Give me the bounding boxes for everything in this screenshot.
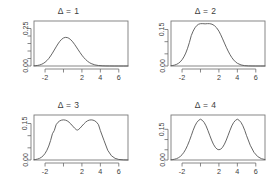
svg-text:6: 6 bbox=[254, 167, 258, 176]
svg-text:0.15: 0.15 bbox=[21, 117, 28, 131]
svg-text:2: 2 bbox=[80, 73, 84, 82]
svg-text:0.00: 0.00 bbox=[22, 153, 29, 167]
svg-text:6: 6 bbox=[117, 167, 121, 176]
svg-text:6: 6 bbox=[254, 73, 258, 82]
svg-text:4: 4 bbox=[98, 167, 102, 176]
plot-delta-3: 0.000.15-2246 bbox=[0, 94, 137, 188]
svg-text:0.00: 0.00 bbox=[159, 59, 166, 73]
mixture-density-figure: Δ = 1 0.000.25-2246 Δ = 2 0.000.15-2246 … bbox=[0, 0, 274, 188]
panel-delta-2: Δ = 2 0.000.15-2246 bbox=[137, 0, 274, 94]
svg-text:4: 4 bbox=[235, 73, 239, 82]
svg-text:-2: -2 bbox=[42, 73, 48, 82]
plot-delta-4: 0.000.15-2246 bbox=[137, 94, 274, 188]
svg-text:2: 2 bbox=[80, 167, 84, 176]
svg-text:6: 6 bbox=[117, 73, 121, 82]
svg-text:0.15: 0.15 bbox=[159, 23, 166, 37]
svg-text:-2: -2 bbox=[179, 167, 185, 176]
panel-delta-1: Δ = 1 0.000.25-2246 bbox=[0, 0, 137, 94]
svg-text:0.00: 0.00 bbox=[22, 59, 29, 73]
svg-text:4: 4 bbox=[98, 73, 102, 82]
svg-text:0.15: 0.15 bbox=[159, 122, 166, 136]
svg-text:2: 2 bbox=[217, 73, 221, 82]
panel-delta-4: Δ = 4 0.000.15-2246 bbox=[137, 94, 274, 188]
svg-text:0.00: 0.00 bbox=[159, 153, 166, 167]
plot-delta-2: 0.000.15-2246 bbox=[137, 0, 274, 94]
svg-text:-2: -2 bbox=[179, 73, 185, 82]
svg-text:0.25: 0.25 bbox=[22, 22, 29, 36]
svg-text:-2: -2 bbox=[42, 167, 48, 176]
svg-text:4: 4 bbox=[235, 167, 239, 176]
panel-delta-3: Δ = 3 0.000.15-2246 bbox=[0, 94, 137, 188]
svg-text:2: 2 bbox=[217, 167, 221, 176]
plot-delta-1: 0.000.25-2246 bbox=[0, 0, 137, 94]
